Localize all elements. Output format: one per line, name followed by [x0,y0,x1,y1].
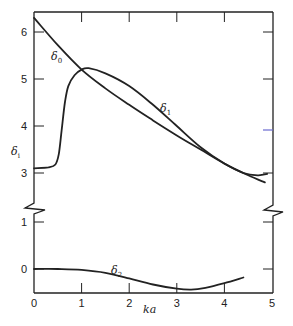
y-axis-label: δi [11,145,21,160]
axes-frame [25,12,283,293]
x-tick-label: 1 [79,297,85,309]
x-tick-label: 0 [31,297,37,309]
curves [34,18,267,290]
x-tick-label: 4 [221,297,227,309]
label-delta0: δ0 [51,50,62,65]
x-tick-label: 2 [126,297,132,309]
right-axis [264,12,283,293]
y-tick-label: 0 [21,263,27,275]
phase-shift-chart: 012345345601 δ0 δ1 δ2 δi ka [0,0,293,326]
tick-marks [34,12,273,293]
curve-delta0 [34,18,265,183]
x-tick-label: 3 [174,297,180,309]
label-delta1: δ1 [160,102,171,117]
y-tick-label: 5 [21,73,27,85]
y-tick-label: 4 [21,120,27,132]
curve-delta2 [34,269,243,290]
label-delta2: δ2 [111,264,122,279]
curve-delta1 [34,68,267,175]
tick-labels: 012345345601 [21,26,275,309]
y-tick-label: 6 [21,26,27,38]
left-axis [25,12,45,293]
y-tick-label: 3 [21,167,27,179]
x-axis-label: ka [143,303,156,316]
y-tick-label: 1 [21,216,27,228]
x-tick-label: 5 [269,297,275,309]
